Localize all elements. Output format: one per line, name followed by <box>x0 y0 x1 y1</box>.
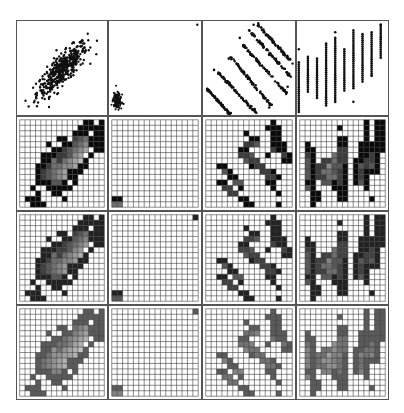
panel-r4c1 <box>16 305 108 400</box>
panel-r2c1 <box>16 116 108 211</box>
panel-r2c2 <box>108 116 202 211</box>
panel-r4c3 <box>202 305 296 400</box>
panel-r1c4 <box>296 20 389 116</box>
panel-r3c1 <box>16 211 108 305</box>
panel-r3c3 <box>202 211 296 305</box>
panel-r2c4 <box>296 116 389 211</box>
panel-r3c4 <box>296 211 389 305</box>
panel-r3c2 <box>108 211 202 305</box>
panel-r1c2 <box>108 20 202 116</box>
panel-r1c3 <box>202 20 296 116</box>
panel-r4c4 <box>296 305 389 400</box>
scatterplot-matrix <box>16 20 389 400</box>
panel-r4c2 <box>108 305 202 400</box>
panel-r2c3 <box>202 116 296 211</box>
panel-r1c1 <box>16 20 108 116</box>
